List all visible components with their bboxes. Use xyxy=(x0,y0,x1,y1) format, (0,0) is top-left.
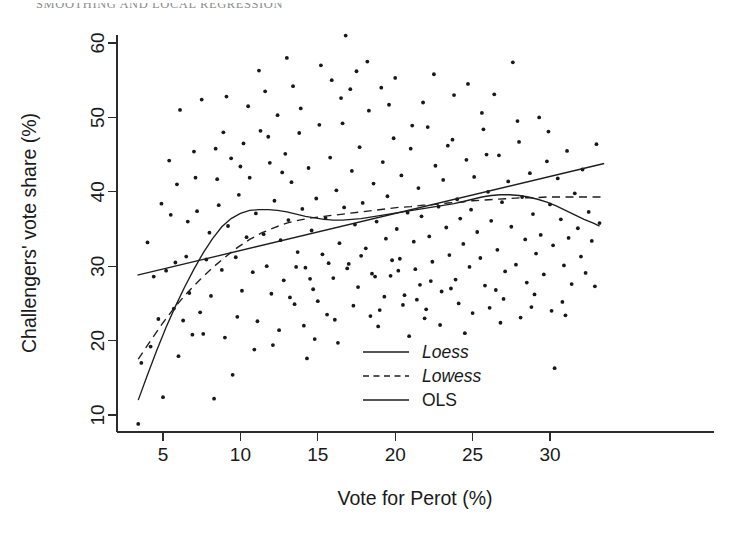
data-point xyxy=(412,240,416,244)
data-point xyxy=(352,304,356,308)
data-point xyxy=(595,142,599,146)
data-point xyxy=(348,87,352,91)
data-point xyxy=(288,296,292,300)
data-point xyxy=(426,125,430,129)
data-point xyxy=(398,257,402,261)
data-point xyxy=(525,281,529,285)
data-point xyxy=(136,422,140,426)
data-point xyxy=(463,331,467,335)
data-point xyxy=(355,69,359,73)
data-point xyxy=(458,217,462,221)
data-point xyxy=(542,272,546,276)
data-point xyxy=(160,202,164,206)
y-tick-label: 30 xyxy=(87,256,108,277)
data-point xyxy=(229,156,233,160)
data-point xyxy=(259,129,263,133)
legend: LoessLowessOLS xyxy=(363,342,482,410)
data-point xyxy=(590,239,594,243)
data-point xyxy=(297,131,301,135)
data-point xyxy=(372,182,376,186)
data-point xyxy=(265,264,269,268)
data-point xyxy=(401,303,405,307)
data-point xyxy=(461,242,465,246)
data-point xyxy=(316,299,320,303)
data-point xyxy=(438,323,442,327)
data-point xyxy=(424,307,428,311)
data-point xyxy=(184,255,188,259)
data-point xyxy=(283,152,287,156)
data-point xyxy=(212,397,216,401)
data-point xyxy=(441,178,445,182)
data-point xyxy=(290,180,294,184)
data-point xyxy=(454,278,458,282)
data-point xyxy=(584,271,588,275)
data-point xyxy=(598,221,602,225)
data-point xyxy=(440,290,444,294)
data-point xyxy=(181,319,185,323)
data-point xyxy=(313,337,317,341)
data-point xyxy=(161,395,165,399)
data-point xyxy=(317,123,321,127)
data-point xyxy=(276,113,280,117)
data-point xyxy=(500,200,504,204)
data-point xyxy=(444,226,448,230)
data-point xyxy=(376,325,380,329)
data-point xyxy=(294,265,298,269)
x-tick-label: 15 xyxy=(307,444,328,465)
data-point xyxy=(556,177,560,181)
data-point xyxy=(304,266,308,270)
data-point xyxy=(282,278,286,282)
axis-labels-layer: 10203040506051015202530Vote for Perot (%… xyxy=(18,32,561,509)
data-point xyxy=(209,294,213,298)
data-point xyxy=(531,212,535,216)
data-point xyxy=(457,302,461,306)
data-point xyxy=(553,366,557,370)
data-point xyxy=(403,293,407,297)
data-point xyxy=(251,270,255,274)
y-tick-label: 40 xyxy=(87,181,108,202)
data-points-layer xyxy=(136,34,601,426)
data-point xyxy=(273,199,277,203)
data-point xyxy=(465,158,469,162)
data-point xyxy=(266,135,270,139)
data-point xyxy=(420,214,424,218)
data-point xyxy=(375,220,379,224)
data-point xyxy=(567,236,571,240)
data-point xyxy=(489,219,493,223)
data-point xyxy=(156,317,160,321)
data-point xyxy=(225,95,229,99)
data-point xyxy=(449,287,453,291)
data-point xyxy=(310,229,314,233)
data-point xyxy=(300,207,304,211)
data-point xyxy=(217,203,221,207)
data-point xyxy=(191,333,195,337)
axes-layer xyxy=(108,35,714,441)
data-point xyxy=(200,98,204,102)
y-axis-title: Challengers' vote share (%) xyxy=(18,113,40,353)
data-point xyxy=(286,218,290,222)
data-point xyxy=(545,159,549,163)
data-point xyxy=(257,69,261,73)
data-point xyxy=(468,265,472,269)
data-point xyxy=(361,201,365,205)
figure-container: SMOOTHING AND LOCAL REGRESSION 102030405… xyxy=(0,0,734,537)
y-tick-label: 60 xyxy=(87,32,108,53)
data-point xyxy=(192,150,196,154)
data-point xyxy=(381,160,385,164)
data-point xyxy=(395,227,399,231)
data-point xyxy=(511,60,515,64)
y-tick-label: 50 xyxy=(87,107,108,128)
data-point xyxy=(169,213,173,217)
data-point xyxy=(220,268,224,272)
data-point xyxy=(367,109,371,113)
x-tick-label: 10 xyxy=(230,444,251,465)
data-point xyxy=(407,334,411,338)
data-point xyxy=(370,272,374,276)
data-point xyxy=(593,284,597,288)
data-point xyxy=(328,156,332,160)
data-point xyxy=(194,176,198,180)
data-point xyxy=(409,147,413,151)
data-point xyxy=(296,250,300,254)
data-point xyxy=(466,82,470,86)
data-point xyxy=(560,300,564,304)
